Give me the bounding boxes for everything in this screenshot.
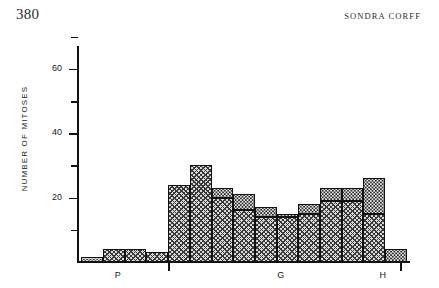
y-tick-minor-70 bbox=[71, 37, 78, 39]
bar-14-stippled-segment bbox=[363, 178, 385, 213]
bar-3-hatched-segment bbox=[125, 249, 146, 262]
y-tick-minor-10 bbox=[71, 230, 78, 232]
bar-8 bbox=[233, 194, 255, 262]
bar-11-stippled-segment bbox=[298, 204, 320, 214]
bar-6-hatched-segment bbox=[190, 165, 212, 262]
bar-7-stippled-segment bbox=[212, 188, 233, 198]
bar-5-hatched-segment bbox=[168, 185, 190, 262]
page-header: 380 SONDRA CORFF bbox=[0, 0, 439, 30]
bar-13 bbox=[342, 188, 363, 262]
bar-4 bbox=[146, 252, 168, 262]
bar-13-hatched-segment bbox=[342, 201, 363, 262]
bar-8-hatched-segment bbox=[233, 210, 255, 262]
bar-12-hatched-segment bbox=[320, 201, 342, 262]
bar-10-hatched-segment bbox=[277, 217, 298, 262]
x-label-h: H bbox=[373, 270, 393, 280]
bar-12-stippled-segment bbox=[320, 188, 342, 201]
bar-10 bbox=[277, 214, 298, 262]
bar-2 bbox=[103, 249, 125, 262]
y-tick-label-40: 40 bbox=[40, 127, 62, 137]
bar-15 bbox=[385, 249, 407, 262]
y-tick-minor-30 bbox=[71, 165, 78, 167]
bar-15-stippled-segment bbox=[385, 249, 407, 262]
bar-1 bbox=[81, 257, 103, 262]
x-tick-1 bbox=[168, 262, 170, 271]
page-number: 380 bbox=[16, 6, 39, 23]
y-tick-major-20 bbox=[69, 198, 78, 200]
x-label-p: P bbox=[108, 270, 128, 280]
bar-7-hatched-segment bbox=[212, 198, 233, 262]
bar-10-stippled-segment bbox=[277, 214, 298, 217]
bar-12 bbox=[320, 188, 342, 262]
y-tick-major-40 bbox=[69, 133, 78, 135]
bar-6 bbox=[190, 165, 212, 262]
bar-11 bbox=[298, 204, 320, 262]
histogram-figure: NUMBER OF MITOSES 204060 PGH bbox=[0, 30, 439, 288]
x-tick-2 bbox=[400, 262, 402, 271]
bar-1-stippled-segment bbox=[81, 257, 103, 262]
bar-11-hatched-segment bbox=[298, 214, 320, 262]
bar-9-hatched-segment bbox=[255, 217, 277, 262]
bar-5 bbox=[168, 185, 190, 262]
y-tick-label-20: 20 bbox=[40, 192, 62, 202]
y-tick-minor-50 bbox=[71, 101, 78, 103]
y-tick-label-60: 60 bbox=[40, 63, 62, 73]
bar-14-hatched-segment bbox=[363, 214, 385, 262]
y-tick-major-60 bbox=[69, 69, 78, 71]
bar-4-hatched-segment bbox=[146, 252, 168, 262]
bar-7 bbox=[212, 188, 233, 262]
bar-9 bbox=[255, 207, 277, 262]
bar-8-stippled-segment bbox=[233, 194, 255, 210]
bar-2-hatched-segment bbox=[103, 249, 125, 262]
bar-3 bbox=[125, 249, 146, 262]
x-label-g: G bbox=[271, 270, 291, 280]
running-head-author: SONDRA CORFF bbox=[344, 11, 421, 21]
bar-13-stippled-segment bbox=[342, 188, 363, 201]
bar-14 bbox=[363, 178, 385, 262]
y-axis-title: NUMBER OF MITOSES bbox=[20, 69, 29, 209]
bar-9-stippled-segment bbox=[255, 207, 277, 217]
